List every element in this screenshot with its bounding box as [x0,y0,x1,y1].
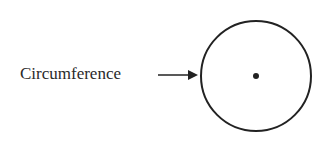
center-point-icon [253,73,259,79]
arrow-icon [158,70,198,80]
diagram-graphics [0,0,329,142]
circumference-diagram: Circumference [0,0,329,142]
